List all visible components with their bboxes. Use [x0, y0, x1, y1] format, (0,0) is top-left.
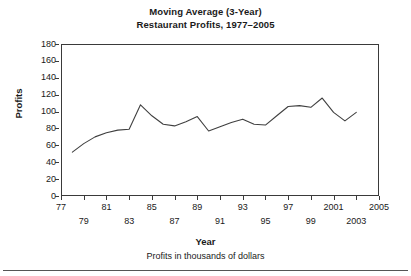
- x-axis-tick-label: 2001: [314, 203, 354, 212]
- chart-figure: Moving Average (3-Year) Restaurant Profi…: [0, 0, 411, 276]
- x-axis-tick-label: 81: [86, 203, 126, 212]
- y-axis-tick-mark: [55, 128, 59, 129]
- x-axis-tick-label: 79: [64, 217, 104, 226]
- x-axis-tick-label: 89: [177, 203, 217, 212]
- y-axis-tick-mark: [55, 162, 59, 163]
- x-axis-tick-label: 95: [245, 217, 285, 226]
- y-axis-tick-mark: [55, 196, 59, 197]
- x-axis-tick-label: 2003: [336, 217, 376, 226]
- data-line-series: [61, 44, 379, 196]
- chart-footnote: Profits in thousands of dollars: [0, 251, 411, 261]
- bottom-divider: [3, 270, 408, 271]
- x-axis-tick-label: 77: [41, 203, 81, 212]
- y-axis-tick-mark: [55, 95, 59, 96]
- x-axis-tick-label: 93: [223, 203, 263, 212]
- y-axis-tick-mark: [55, 179, 59, 180]
- x-axis-tick-label: 83: [109, 217, 149, 226]
- x-axis-tick-label: 87: [155, 217, 195, 226]
- x-axis-tick-label: 91: [200, 217, 240, 226]
- chart-title-line-2: Restaurant Profits, 1977–2005: [0, 19, 411, 32]
- x-axis-title: Year: [0, 236, 411, 247]
- series-polyline: [72, 98, 356, 152]
- chart-title-line-1: Moving Average (3-Year): [0, 6, 411, 19]
- x-axis-tick-label: 99: [291, 217, 331, 226]
- y-axis-tick-mark: [55, 44, 59, 45]
- x-axis-tick-label: 97: [268, 203, 308, 212]
- y-axis-tick-mark: [55, 112, 59, 113]
- x-axis-tick-label: 85: [132, 203, 172, 212]
- chart-title: Moving Average (3-Year) Restaurant Profi…: [0, 6, 411, 31]
- y-axis-tick-mark: [55, 145, 59, 146]
- x-axis-tick-mark: [379, 196, 380, 200]
- y-axis-tick-mark: [55, 78, 59, 79]
- x-axis-tick-labels: 778185899397200120057983879195992003: [61, 196, 379, 236]
- y-axis-tick-mark: [55, 61, 59, 62]
- x-axis-tick-label: 2005: [359, 203, 399, 212]
- y-axis-tick-marks: [0, 44, 61, 196]
- y-axis-title: Profits: [13, 69, 24, 139]
